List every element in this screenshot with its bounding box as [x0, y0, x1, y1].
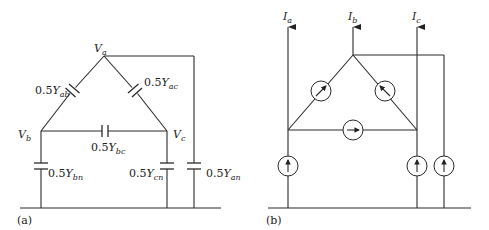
caption-a: (a) — [17, 214, 32, 227]
label-cap-bn: 0.5Ybn — [48, 167, 83, 182]
label-cap-cn: 0.5Ycn — [129, 167, 163, 182]
label-cap-bc: 0.5Ybc — [91, 141, 126, 156]
panel-a-circuit — [20, 56, 221, 208]
label-ib: Ib — [347, 10, 357, 25]
label-va: Va — [94, 42, 107, 57]
current-source-b-ground — [434, 156, 454, 176]
current-source-c-ground — [407, 156, 427, 176]
capacitor-cn — [160, 131, 174, 208]
current-source-bc — [343, 120, 363, 140]
current-source-ac — [375, 81, 395, 101]
figure: Va Vb Vc 0.5Yab 0.5Yac 0.5Ybc 0.5Ybn 0.5… — [0, 0, 489, 230]
label-vc: Vc — [173, 128, 186, 143]
caption-b: (b) — [266, 214, 282, 227]
current-source-ab — [311, 81, 331, 101]
panel-b-circuit — [268, 27, 471, 208]
label-vb: Vb — [18, 128, 31, 143]
capacitor-bn — [34, 131, 48, 208]
label-cap-ac: 0.5Yac — [144, 76, 179, 91]
label-cap-an: 0.5Yan — [206, 167, 241, 182]
capacitor-ac — [104, 56, 167, 131]
capacitor-bc — [41, 125, 167, 137]
label-ia: Ia — [282, 10, 292, 25]
current-source-a-ground — [278, 156, 298, 176]
label-cap-ab: 0.5Yab — [35, 84, 70, 99]
label-ic: Ic — [411, 10, 421, 25]
